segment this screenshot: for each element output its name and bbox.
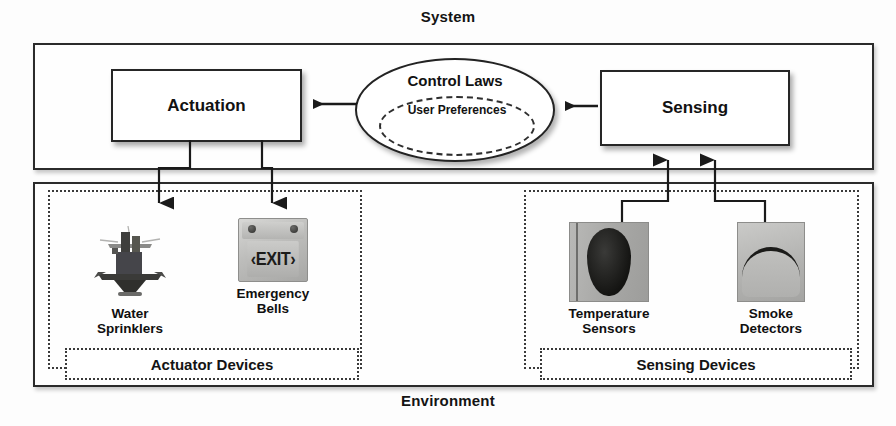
smoke-detectors-caption: Smoke Detectors [711,306,831,336]
device-smoke-detectors[interactable]: Smoke Detectors [711,222,831,336]
water-sprinklers-caption: Water Sprinklers [70,306,190,336]
temperature-sensor-icon [569,222,649,302]
device-water-sprinklers[interactable]: Water Sprinklers [70,222,190,336]
emergency-bells-caption: Emergency Bells [213,286,333,316]
sensing-devices-caption: Sensing Devices [540,348,852,380]
temperature-sensor-strip [576,223,578,301]
device-emergency-bells[interactable]: ‹EXIT› Emergency Bells [213,218,333,316]
user-preferences-label: User Preferences [381,104,533,117]
smoke-detector-icon [737,222,805,302]
control-laws-ellipse[interactable]: Control Laws User Preferences [355,58,555,162]
environment-label: Environment [0,392,896,409]
actuator-devices-caption: Actuator Devices [65,348,359,380]
temperature-sensors-caption: Temperature Sensors [549,306,669,336]
temperature-sensor-bulb [587,228,631,296]
system-label: System [0,8,896,25]
diagram-canvas: System Environment Actuation Sensing Con… [0,0,896,426]
water-sprinkler-icon [88,222,172,302]
exit-sign-icon: ‹EXIT› [238,218,308,282]
exit-sign-text: ‹EXIT› [247,241,299,277]
sensing-block[interactable]: Sensing [600,70,790,146]
control-laws-title: Control Laws [357,72,553,89]
smoke-detector-dome [742,247,800,297]
exit-sign-screw-right [290,225,298,233]
exit-sign-screw-left [248,225,256,233]
actuation-block[interactable]: Actuation [111,69,302,142]
user-preferences-ellipse[interactable]: User Preferences [379,96,535,156]
device-temperature-sensors[interactable]: Temperature Sensors [549,222,669,336]
